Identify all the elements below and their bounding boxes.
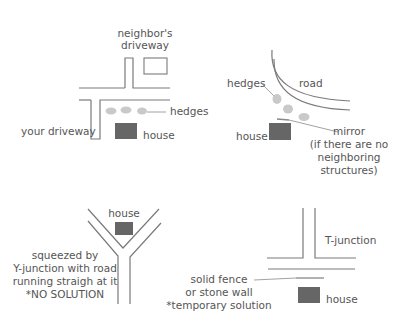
fence-leader-line xyxy=(254,278,296,280)
label-house: house xyxy=(326,293,358,305)
house-shape xyxy=(298,287,320,303)
hedges xyxy=(106,107,148,115)
road-curve-outer xyxy=(272,50,350,101)
neighbor-driveway-road xyxy=(125,58,170,88)
hedges xyxy=(273,94,310,121)
hedge-shrub xyxy=(106,108,117,115)
t-junction-left-edge xyxy=(267,208,303,258)
label-mirror-1: mirror xyxy=(333,125,366,137)
label-t-junction: T-junction xyxy=(324,234,376,246)
hedge-shrub xyxy=(137,108,147,115)
hedge-shrub xyxy=(283,105,293,114)
hedges-leader-line xyxy=(262,84,274,96)
t-junction-right-edge xyxy=(315,208,356,258)
house-shape xyxy=(115,222,133,235)
label-house: house xyxy=(143,129,175,141)
label-y-desc-1: squeezed by xyxy=(32,249,99,261)
hedge-shrub xyxy=(121,107,132,114)
neighbor-building xyxy=(144,58,167,74)
label-house: house xyxy=(236,130,268,142)
panel-driveway: neighbor's driveway hedges house your dr… xyxy=(21,27,208,141)
label-y-desc-4: *NO SOLUTION xyxy=(26,288,104,300)
label-neighbor-driveway-2: driveway xyxy=(121,39,169,51)
house-shape xyxy=(269,123,291,140)
label-neighbor-driveway-1: neighbor's xyxy=(117,27,172,39)
label-hedges: hedges xyxy=(170,105,208,117)
hedge-shrub xyxy=(299,113,310,121)
label-road: road xyxy=(299,77,323,89)
label-y-desc-2: Y-junction with road xyxy=(12,262,117,274)
label-y-desc-3: running straigh at it xyxy=(13,275,118,287)
label-fence-2: or stone wall xyxy=(185,286,252,298)
feng-shui-diagram: neighbor's driveway hedges house your dr… xyxy=(0,0,405,321)
label-hedges: hedges xyxy=(227,77,265,89)
hedge-shrub xyxy=(273,94,282,104)
label-mirror-4: structures) xyxy=(320,164,377,176)
panel-t-junction: T-junction solid fence or stone wall *te… xyxy=(166,208,376,311)
mirror-shape xyxy=(277,119,289,120)
label-mirror-3: neighboring xyxy=(318,151,381,163)
label-mirror-2: (if there are no xyxy=(310,138,389,150)
mirror-leader-line xyxy=(289,120,338,132)
label-fence-1: solid fence xyxy=(191,273,248,285)
panel-y-junction: house squeezed by Y-junction with road r… xyxy=(12,207,161,304)
label-house: house xyxy=(108,207,140,219)
label-your-driveway: your driveway xyxy=(21,125,96,137)
house-shape xyxy=(115,123,137,139)
label-fence-3: *temporary solution xyxy=(166,299,271,311)
panel-curve: road hedges house mirror (if there are n… xyxy=(227,50,388,176)
